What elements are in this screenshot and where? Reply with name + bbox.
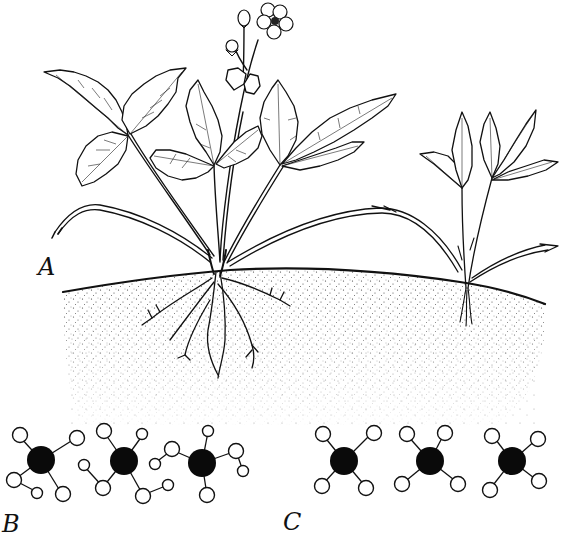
panel-b-molecules (7, 424, 249, 504)
runner-left (52, 205, 212, 262)
panel-label-b: B (2, 512, 20, 536)
panel-label-c: C (283, 510, 301, 534)
panel-c-molecules (315, 426, 547, 498)
flower-bud (238, 10, 250, 28)
daughter-plant (420, 110, 558, 288)
molecule-c2 (395, 426, 466, 492)
molecule-c1 (315, 426, 382, 496)
illustration-svg (0, 0, 567, 540)
illustration-canvas: A B C (0, 0, 567, 540)
runner-far-right (470, 244, 558, 282)
molecule-b1 (7, 428, 85, 502)
runner-right (228, 206, 462, 272)
mother-plant-leaves (44, 68, 396, 186)
molecule-c3 (483, 429, 547, 498)
soil (63, 269, 545, 431)
flower (257, 3, 293, 39)
molecule-b3 (150, 426, 249, 503)
panel-label-a: A (38, 255, 55, 279)
flower-bud-small (226, 40, 238, 56)
